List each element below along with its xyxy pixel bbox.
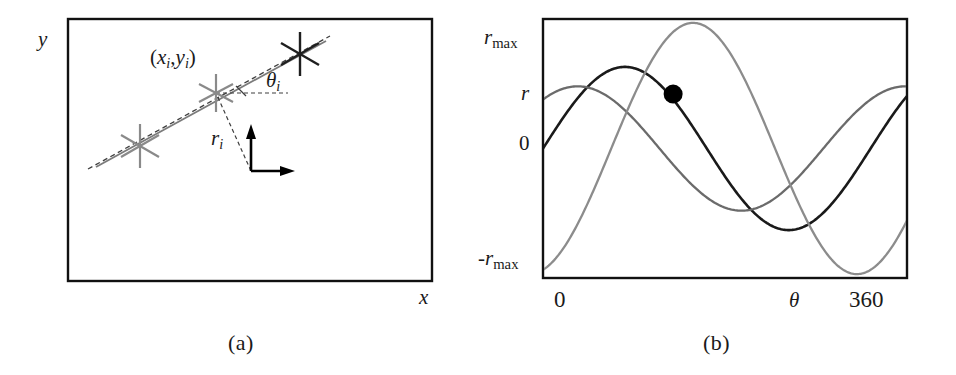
radius-symbol: r bbox=[211, 126, 219, 150]
y-label-neg-sign: - bbox=[478, 246, 485, 270]
panel-a-graphic bbox=[0, 0, 478, 375]
x-axis-label-theta: θ bbox=[789, 290, 799, 311]
figure-container: y x (xi,yi) θi ri (a) rmax r 0 bbox=[0, 0, 956, 375]
axis-label-y: y bbox=[38, 29, 47, 50]
y-label-neg-rmax: -rmax bbox=[478, 248, 518, 271]
point-coordinate-label: (xi,yi) bbox=[150, 47, 196, 70]
radius-subscript: i bbox=[219, 136, 223, 152]
radius-r-label: ri bbox=[211, 128, 223, 151]
panel-b-frame bbox=[543, 19, 907, 278]
y-label-neg-rmax-symbol: r bbox=[485, 246, 493, 270]
panel-b-caption: (b) bbox=[703, 330, 730, 356]
panel-b-graphic bbox=[478, 0, 956, 375]
point-label-x-symbol: x bbox=[157, 45, 166, 69]
panel-a-caption: (a) bbox=[228, 330, 254, 356]
panel-b: rmax r 0 -rmax 0 θ 360 (b) bbox=[478, 0, 956, 375]
axis-label-x: x bbox=[419, 287, 428, 308]
y-label-neg-rmax-subscript: max bbox=[493, 256, 518, 272]
y-label-rmax-symbol: r bbox=[484, 25, 492, 49]
y-label-rmax-subscript: max bbox=[492, 35, 517, 51]
theta-symbol: θ bbox=[266, 68, 276, 92]
point-label-y-symbol: y bbox=[176, 45, 185, 69]
angle-theta-label: θi bbox=[266, 70, 280, 93]
x-label-360: 360 bbox=[849, 288, 884, 311]
y-label-zero: 0 bbox=[519, 133, 530, 154]
intersection-point-dot bbox=[664, 85, 683, 104]
x-label-zero: 0 bbox=[554, 288, 566, 311]
y-label-r: r bbox=[521, 83, 529, 104]
y-label-rmax: rmax bbox=[484, 27, 517, 50]
panel-a: y x (xi,yi) θi ri (a) bbox=[0, 0, 478, 375]
point-label-close-paren: ) bbox=[189, 45, 196, 69]
point-label-open-paren: ( bbox=[150, 45, 157, 69]
theta-subscript: i bbox=[276, 78, 280, 94]
